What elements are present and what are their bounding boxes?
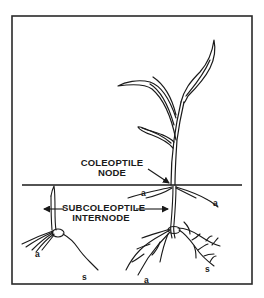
diagram-canvas: a s a a a s — [0, 0, 264, 298]
label-a-upper-right: a — [213, 198, 218, 208]
main-plant-roots — [126, 186, 220, 275]
coleoptile-node-label: COLEOPTILE NODE — [76, 158, 148, 178]
coleoptile-node-label-line2: NODE — [76, 168, 148, 178]
label-s-lower: s — [205, 264, 210, 274]
main-subcoleoptile-internode — [171, 186, 173, 238]
label-a-upper-left: a — [141, 188, 146, 198]
diagram-frame — [12, 16, 252, 284]
main-leaf-lower — [138, 127, 174, 148]
label-a-small-seedling: a — [35, 249, 40, 259]
label-s-small-seedling: s — [82, 272, 87, 282]
main-leaf-tall — [181, 40, 215, 103]
main-leaf-left — [118, 81, 176, 140]
small-seedling — [22, 186, 98, 270]
coleoptile-node-arrow — [148, 169, 169, 183]
label-a-lower: a — [144, 275, 149, 285]
seedling-diagram: a s a a a s COLEOPTILE NODE SUBCOLEOPTIL… — [0, 0, 264, 298]
subcoleoptile-internode-label: SUBCOLEOPTILE INTERNODE — [62, 203, 140, 223]
subcoleoptile-label-line2: INTERNODE — [62, 213, 140, 223]
